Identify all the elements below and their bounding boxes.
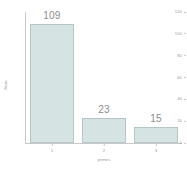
x-axis-tick-label: 3: [155, 149, 157, 153]
y-axis-tick-mark: [184, 99, 187, 100]
y-axis-tick-mark: [184, 143, 187, 144]
x-axis-tick-mark: [155, 143, 156, 146]
bar-value-label: 109: [43, 11, 60, 21]
bar: [30, 24, 74, 143]
y-axis-tick-mark: [184, 121, 187, 122]
x-axis-tick: 3: [155, 143, 157, 153]
bar: [134, 127, 178, 143]
y-axis-tick-mark: [184, 77, 187, 78]
bar-value-label: 23: [98, 105, 110, 115]
plot-area: 1092315: [26, 12, 182, 143]
x-axis-title: primes: [26, 158, 182, 162]
bar-value-label: 15: [150, 114, 162, 124]
y-axis-tick-mark: [184, 33, 187, 34]
x-axis-tick-mark: [103, 143, 104, 146]
y-axis-tick-mark: [184, 12, 187, 13]
x-axis-tick-label: 1: [51, 149, 53, 153]
y-axis-tick-mark: [184, 55, 187, 56]
y-axis-title: Num: [4, 80, 8, 89]
bar: [82, 118, 126, 143]
bar-chart: 020406080100120 123 1092315 Num primes: [0, 0, 186, 169]
x-axis-tick: 2: [103, 143, 105, 153]
x-axis-tick-label: 2: [103, 149, 105, 153]
x-axis-tick: 1: [51, 143, 53, 153]
x-axis-tick-mark: [51, 143, 52, 146]
